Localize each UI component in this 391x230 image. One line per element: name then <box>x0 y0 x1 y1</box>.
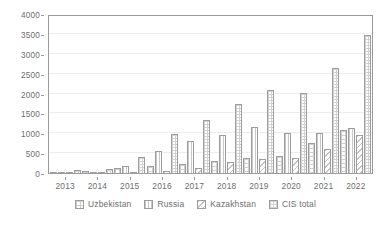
bar-chart: 05001000150020002500300035004000 2013201… <box>0 0 391 230</box>
y-tick-label: 2000 <box>21 90 40 99</box>
x-tick-mark <box>324 177 325 180</box>
bar-russia-2017 <box>187 141 194 174</box>
bar-cis_total-2015 <box>138 157 145 174</box>
x-tick-mark <box>130 177 131 180</box>
bar-russia-2020 <box>284 133 291 174</box>
bar-group <box>114 15 146 174</box>
bar-cis_total-2014 <box>106 169 113 174</box>
bar-kazakhstan-2022 <box>356 135 363 174</box>
bar-kazakhstan-2018 <box>227 162 234 174</box>
legend-swatch-russia <box>144 200 153 209</box>
chart-legend: UzbekistanRussiaKazakhstanCIS total <box>0 199 391 209</box>
bar-kazakhstan-2013 <box>66 172 73 174</box>
bar-uzbekistan-2017 <box>179 164 186 174</box>
bar-group <box>178 15 210 174</box>
bar-cis_total-2022 <box>364 35 371 174</box>
x-tick-label-2013: 2013 <box>55 181 74 191</box>
legend-label-kazakhstan: Kazakhstan <box>210 199 256 209</box>
y-tick-label: 3000 <box>21 50 40 59</box>
bar-russia-2014 <box>90 172 97 174</box>
bar-kazakhstan-2021 <box>324 149 331 174</box>
bar-russia-2016 <box>155 151 162 174</box>
y-tick-label: 500 <box>26 150 40 159</box>
y-tick-mark <box>41 35 44 36</box>
bar-uzbekistan-2022 <box>340 130 347 174</box>
x-tick-label-2015: 2015 <box>120 181 139 191</box>
y-tick-mark <box>41 15 44 16</box>
bar-kazakhstan-2020 <box>292 158 299 174</box>
y-tick-mark <box>41 95 44 96</box>
y-tick-mark <box>41 55 44 56</box>
legend-swatch-uzbekistan <box>75 200 84 209</box>
bar-cis_total-2013 <box>74 170 81 174</box>
bar-group <box>243 15 275 174</box>
x-tick-label-2021: 2021 <box>314 181 333 191</box>
bar-kazakhstan-2016 <box>163 171 170 174</box>
bar-cis_total-2020 <box>300 93 307 174</box>
bar-group <box>211 15 243 174</box>
bar-kazakhstan-2017 <box>195 168 202 174</box>
legend-swatch-kazakhstan <box>197 200 206 209</box>
bar-group <box>49 15 81 174</box>
x-tick-label-2018: 2018 <box>217 181 236 191</box>
y-tick-mark <box>41 154 44 155</box>
y-tick-label: 1500 <box>21 110 40 119</box>
bar-uzbekistan-2016 <box>147 166 154 174</box>
bar-group <box>146 15 178 174</box>
bar-group <box>307 15 339 174</box>
bar-kazakhstan-2019 <box>259 159 266 175</box>
x-tick-mark <box>65 177 66 180</box>
x-tick-mark <box>227 177 228 180</box>
y-tick-label: 3500 <box>21 30 40 39</box>
x-tick-mark <box>97 177 98 180</box>
legend-item-russia[interactable]: Russia <box>144 199 184 209</box>
bar-cis_total-2019 <box>267 90 274 174</box>
bar-russia-2018 <box>219 135 226 174</box>
legend-label-uzbekistan: Uzbekistan <box>88 199 131 209</box>
y-axis: 05001000150020002500300035004000 <box>0 15 44 174</box>
x-axis: 2013201420152016201720182019202020212022 <box>49 177 372 191</box>
x-tick-mark <box>162 177 163 180</box>
legend-label-russia: Russia <box>157 199 184 209</box>
x-tick-label-2014: 2014 <box>88 181 107 191</box>
y-tick-label: 1000 <box>21 130 40 139</box>
x-tick-label-2016: 2016 <box>152 181 171 191</box>
bar-uzbekistan-2014 <box>82 171 89 174</box>
bar-russia-2021 <box>316 133 323 174</box>
bar-uzbekistan-2019 <box>243 158 250 174</box>
x-tick-mark <box>356 177 357 180</box>
bar-uzbekistan-2013 <box>50 172 57 174</box>
bar-group <box>81 15 113 174</box>
bar-russia-2022 <box>348 128 355 174</box>
x-tick-mark <box>259 177 260 180</box>
x-tick-mark <box>194 177 195 180</box>
bar-group <box>340 15 372 174</box>
y-tick-label: 0 <box>35 170 40 179</box>
legend-item-uzbekistan[interactable]: Uzbekistan <box>75 199 131 209</box>
bar-cis_total-2018 <box>235 104 242 174</box>
y-tick-label: 2500 <box>21 70 40 79</box>
bar-kazakhstan-2014 <box>98 172 105 174</box>
y-tick-mark <box>41 174 44 175</box>
x-tick-label-2022: 2022 <box>346 181 365 191</box>
y-tick-mark <box>41 114 44 115</box>
bar-russia-2015 <box>122 166 129 174</box>
bar-cis_total-2016 <box>171 134 178 174</box>
bar-russia-2013 <box>58 172 65 174</box>
y-tick-mark <box>41 134 44 135</box>
legend-item-cis_total[interactable]: CIS total <box>269 199 316 209</box>
bar-uzbekistan-2020 <box>276 156 283 174</box>
bar-cis_total-2021 <box>332 68 339 174</box>
bar-russia-2019 <box>251 127 258 174</box>
legend-swatch-cis_total <box>269 200 278 209</box>
bar-uzbekistan-2015 <box>114 168 121 174</box>
bars-layer <box>49 15 372 174</box>
bar-kazakhstan-2015 <box>130 172 137 174</box>
bar-uzbekistan-2018 <box>211 161 218 175</box>
legend-item-kazakhstan[interactable]: Kazakhstan <box>197 199 256 209</box>
legend-label-cis_total: CIS total <box>282 199 316 209</box>
y-tick-mark <box>41 75 44 76</box>
bar-group <box>275 15 307 174</box>
x-tick-mark <box>291 177 292 180</box>
bar-cis_total-2017 <box>203 120 210 174</box>
